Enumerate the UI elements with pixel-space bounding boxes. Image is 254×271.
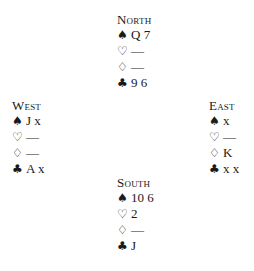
south-spades-row: ♠10 6 <box>117 190 154 206</box>
seat-label-north: North <box>117 12 151 27</box>
seat-label-east: East <box>209 98 239 113</box>
north-hand: North ♠Q 7 ♡— ♢— ♣9 6 <box>117 12 151 91</box>
south-hand: South ♠10 6 ♡2 ♢— ♣J <box>117 175 154 254</box>
east-hand: East ♠x ♡— ♢K ♣x x <box>209 98 239 177</box>
diamond-icon: ♢ <box>117 223 131 238</box>
heart-icon: ♡ <box>117 44 131 59</box>
west-diamonds-cards: — <box>26 145 39 160</box>
east-clubs-row: ♣x x <box>209 161 239 177</box>
spade-icon: ♠ <box>209 114 223 129</box>
diamond-icon: ♢ <box>117 60 131 75</box>
west-spades-cards: J x <box>26 113 41 128</box>
seat-label-south: South <box>117 175 154 190</box>
south-diamonds-cards: — <box>131 222 144 237</box>
east-spades-row: ♠x <box>209 113 239 129</box>
west-hearts-row: ♡— <box>12 129 44 145</box>
south-hearts-row: ♡2 <box>117 206 154 222</box>
north-hearts-cards: — <box>131 43 144 58</box>
north-spades-cards: Q 7 <box>131 27 150 42</box>
heart-icon: ♡ <box>209 130 223 145</box>
heart-icon: ♡ <box>12 130 26 145</box>
south-spades-cards: 10 6 <box>131 190 154 205</box>
east-spades-cards: x <box>223 113 230 128</box>
north-clubs-cards: 9 6 <box>131 75 147 90</box>
east-diamonds-row: ♢K <box>209 145 239 161</box>
south-hearts-cards: 2 <box>131 206 138 221</box>
diamond-icon: ♢ <box>209 146 223 161</box>
seat-label-west: West <box>12 98 44 113</box>
club-icon: ♣ <box>117 76 131 91</box>
east-hearts-row: ♡— <box>209 129 239 145</box>
club-icon: ♣ <box>117 239 131 254</box>
north-diamonds-row: ♢— <box>117 59 151 75</box>
west-clubs-row: ♣A x <box>12 161 44 177</box>
club-icon: ♣ <box>209 162 223 177</box>
south-clubs-row: ♣J <box>117 238 154 254</box>
west-hand: West ♠J x ♡— ♢— ♣A x <box>12 98 44 177</box>
south-diamonds-row: ♢— <box>117 222 154 238</box>
north-hearts-row: ♡— <box>117 43 151 59</box>
diamond-icon: ♢ <box>12 146 26 161</box>
spade-icon: ♠ <box>12 114 26 129</box>
north-clubs-row: ♣9 6 <box>117 75 151 91</box>
south-clubs-cards: J <box>131 238 136 253</box>
west-spades-row: ♠J x <box>12 113 44 129</box>
west-diamonds-row: ♢— <box>12 145 44 161</box>
north-spades-row: ♠Q 7 <box>117 27 151 43</box>
spade-icon: ♠ <box>117 191 131 206</box>
east-diamonds-cards: K <box>223 145 232 160</box>
east-clubs-cards: x x <box>223 161 239 176</box>
west-clubs-cards: A x <box>26 161 44 176</box>
heart-icon: ♡ <box>117 207 131 222</box>
north-diamonds-cards: — <box>131 59 144 74</box>
west-hearts-cards: — <box>26 129 39 144</box>
club-icon: ♣ <box>12 162 26 177</box>
spade-icon: ♠ <box>117 28 131 43</box>
east-hearts-cards: — <box>223 129 236 144</box>
